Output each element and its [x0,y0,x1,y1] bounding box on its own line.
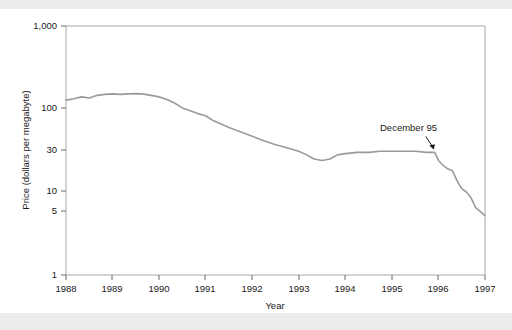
x-tick-label-1995: 1995 [381,283,402,294]
y-tick-label-1: 1 [52,269,57,280]
x-axis-title: Year [265,300,284,311]
x-axis-ticks [66,275,485,280]
annotation-label: December 95 [380,122,437,133]
x-tick-label-1989: 1989 [101,283,122,294]
series-line-price [66,94,485,216]
y-axis-title: Price (dollars per megabyte) [20,90,31,209]
figure-canvas: 1,000 100 30 10 5 1 1988 1989 1990 1991 [0,0,512,330]
y-tick-label-10: 10 [46,185,57,196]
plot-frame [66,26,485,275]
x-tick-label-1993: 1993 [288,283,309,294]
x-tick-label-1992: 1992 [241,283,262,294]
x-tick-label-1996: 1996 [427,283,448,294]
x-tick-label-1990: 1990 [148,283,169,294]
y-axis-ticks [61,26,66,275]
x-tick-label-1991: 1991 [194,283,215,294]
y-tick-label-100: 100 [41,102,57,113]
annotation-arrowhead-icon [429,144,435,149]
line-chart: 1,000 100 30 10 5 1 1988 1989 1990 1991 [0,0,512,330]
y-tick-label-5: 5 [52,205,57,216]
annotation-december-95: December 95 [380,122,437,149]
y-tick-label-30: 30 [46,144,57,155]
y-axis-tick-labels: 1,000 100 30 10 5 1 [33,20,57,280]
y-tick-label-1000: 1,000 [33,20,57,31]
x-tick-label-1997: 1997 [474,283,495,294]
x-axis-tick-labels: 1988 1989 1990 1991 1992 1993 1994 1995 … [55,283,495,294]
x-tick-label-1988: 1988 [55,283,76,294]
x-tick-label-1994: 1994 [334,283,355,294]
